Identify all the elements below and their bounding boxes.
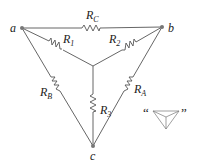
- label-rc: RC: [85, 8, 99, 24]
- wire-r1-center: [63, 50, 93, 66]
- label-rb: RB: [39, 85, 52, 101]
- resistor-ra: [124, 77, 133, 91]
- label-node-a: a: [10, 21, 16, 35]
- label-ra: RA: [133, 82, 146, 98]
- wire-b-ra: [133, 27, 162, 77]
- wire-rb-c: [60, 91, 93, 146]
- label-r1: R1: [62, 32, 74, 48]
- label-r2: R2: [108, 32, 120, 48]
- delta-wye-icon: [153, 111, 179, 129]
- label-r3: R3: [99, 103, 111, 119]
- legend-close-quote: ”: [181, 105, 187, 120]
- resistor-r3: [90, 94, 96, 112]
- label-node-b: b: [168, 21, 174, 35]
- resistor-r2: [122, 39, 136, 50]
- resistor-r1: [49, 38, 62, 49]
- wire-rc-b: [100, 27, 162, 28]
- legend-open-quote: “: [143, 105, 149, 120]
- node-b: [160, 25, 164, 29]
- resistor-rb: [51, 77, 60, 91]
- resistor-rc: [82, 25, 100, 31]
- node-c: [91, 144, 95, 148]
- circuit-diagram: a b c RC R1 R2 RB R3 RA “ ”: [0, 0, 199, 164]
- wire-r2-center: [93, 50, 122, 66]
- node-a: [20, 26, 24, 30]
- label-node-c: c: [90, 149, 96, 163]
